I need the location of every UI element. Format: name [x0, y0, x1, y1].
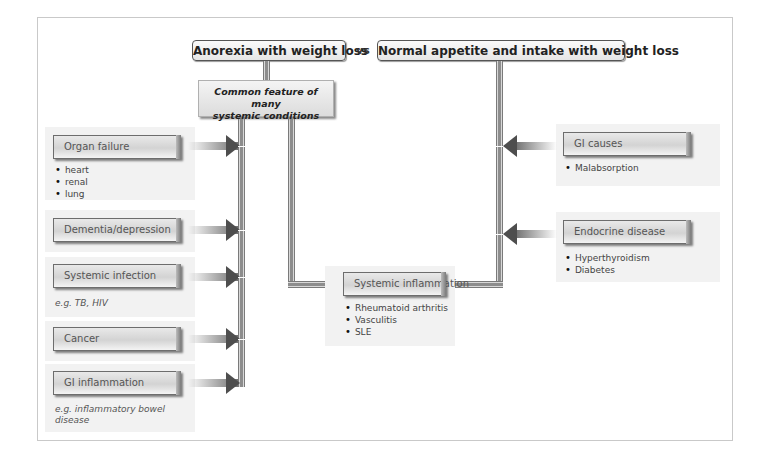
bullet-item: Hyperthyroidism [565, 252, 650, 264]
organ-failure-label: Organ failure [64, 141, 129, 152]
gi-inflammation-note-line1: e.g. inflammatory bowel [55, 404, 165, 415]
pipe-junction [238, 277, 245, 278]
anorexia-title-box: Anorexia with weight loss [192, 40, 346, 61]
pipe-junction [496, 234, 503, 235]
systemic-inflammation-bullets: Rheumatoid arthritis Vasculitis SLE [345, 302, 448, 338]
gi-causes-box: GI causes [563, 132, 691, 156]
bullet-item: Vasculitis [345, 314, 448, 326]
endocrine-bullets: Hyperthyroidism Diabetes [565, 252, 650, 276]
arrow-right-icon [188, 135, 238, 157]
gi-causes-label: GI causes [574, 138, 622, 149]
pipe-junction [238, 339, 245, 340]
bullet-item: SLE [345, 326, 448, 338]
cancer-box: Cancer [53, 327, 181, 351]
cancer-label: Cancer [64, 333, 99, 344]
arrow-right-icon [188, 372, 238, 394]
gi-inflammation-note-line2: disease [55, 415, 165, 426]
gi-inflammation-label: GI inflammation [64, 377, 144, 388]
systemic-infection-label: Systemic infection [64, 270, 156, 281]
common-feature-line1: Common feature of many [199, 86, 333, 110]
systemic-infection-note: e.g. TB, HIV [55, 298, 108, 309]
arrow-left-icon [505, 135, 557, 157]
vs-label: vs [356, 44, 370, 57]
pipe-junction [238, 230, 245, 231]
gi-inflammation-note: e.g. inflammatory bowel disease [55, 404, 165, 426]
systemic-inflammation-box: Systemic inflammation [343, 272, 446, 296]
bullet-item: heart [55, 164, 89, 176]
gi-causes-bullets: Malabsorption [565, 162, 639, 174]
systemic-infection-box: Systemic infection [53, 264, 181, 288]
common-feature-line2: systemic conditions [199, 110, 333, 122]
pipe-right-main [496, 61, 503, 288]
pipe-left-to-inflammation-v [288, 117, 295, 288]
pipe-junction [496, 146, 503, 147]
arrow-left-icon [505, 223, 557, 245]
bullet-item: lung [55, 188, 89, 200]
bullet-item: Rheumatoid arthritis [345, 302, 448, 314]
common-feature-box: Common feature of many systemic conditio… [198, 80, 334, 117]
anorexia-title: Anorexia with weight loss [193, 44, 368, 58]
systemic-inflammation-label: Systemic inflammation [354, 278, 469, 289]
pipe-junction [238, 146, 245, 147]
organ-failure-bullets: heart renal lung [55, 164, 89, 200]
bullet-item: Malabsorption [565, 162, 639, 174]
bullet-item: Diabetes [565, 264, 650, 276]
endocrine-label: Endocrine disease [574, 226, 665, 237]
endocrine-box: Endocrine disease [563, 220, 691, 244]
dementia-box: Dementia/depression [53, 218, 181, 242]
dementia-label: Dementia/depression [64, 224, 171, 235]
normal-appetite-title: Normal appetite and intake with weight l… [378, 44, 679, 58]
bullet-item: renal [55, 176, 89, 188]
gi-inflammation-box: GI inflammation [53, 371, 181, 395]
organ-failure-box: Organ failure [53, 135, 181, 159]
normal-appetite-title-box: Normal appetite and intake with weight l… [377, 40, 625, 61]
arrow-right-icon [188, 328, 238, 350]
pipe-anorexia-to-feature [263, 61, 270, 81]
arrow-right-icon [188, 219, 238, 241]
arrow-right-icon [188, 266, 238, 288]
